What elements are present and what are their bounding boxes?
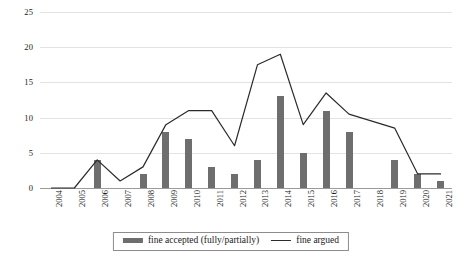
x-axis-tick-label: 2007: [120, 182, 129, 199]
x-axis-tick-label: 2008: [143, 182, 152, 199]
x-axis-tick-label: 2017: [349, 182, 358, 199]
plot-area: [40, 12, 452, 188]
chart-figure: 0510152025 20042005200620072008200920102…: [0, 0, 462, 263]
legend-label-fine-argued: fine argued: [296, 236, 339, 246]
legend-label-fine-accepted: fine accepted (fully/partially): [148, 236, 259, 246]
y-axis-tick-label: 15: [24, 78, 33, 87]
x-axis: 2004200520062007200820092010201120122013…: [40, 190, 452, 230]
y-axis-tick-label: 10: [24, 113, 33, 122]
x-axis-tick-label: 2019: [395, 182, 404, 199]
x-axis-tick-label: 2010: [189, 182, 198, 199]
x-axis-tick-label: 2006: [97, 182, 106, 199]
line-swatch-icon: [271, 240, 291, 241]
chart-legend: fine accepted (fully/partially) fine arg…: [113, 232, 349, 251]
x-axis-tick-label: 2018: [372, 182, 381, 199]
y-axis-tick-label: 5: [29, 149, 33, 158]
y-axis: 0510152025: [0, 0, 38, 200]
plot-wrapper: 0510152025 20042005200620072008200920102…: [0, 0, 462, 200]
legend-item-fine-argued: fine argued: [271, 236, 339, 246]
y-axis-tick-label: 25: [24, 8, 33, 17]
line-series-fine-argued: [40, 12, 452, 188]
x-axis-tick-label: 2009: [166, 182, 175, 199]
x-axis-tick-label: 2014: [280, 182, 289, 199]
x-axis-tick-label: 2012: [235, 182, 244, 199]
y-axis-tick-label: 20: [24, 43, 33, 52]
x-axis-tick-label: 2005: [74, 182, 83, 199]
x-axis-tick-label: 2020: [418, 182, 427, 199]
x-axis-tick-label: 2021: [441, 182, 450, 199]
x-axis-tick-label: 2011: [212, 182, 221, 199]
bar-swatch-icon: [123, 238, 143, 243]
x-axis-tick-label: 2015: [303, 182, 312, 199]
legend-item-fine-accepted: fine accepted (fully/partially): [123, 236, 259, 246]
x-axis-tick-label: 2016: [326, 182, 335, 199]
x-axis-tick-label: 2004: [51, 182, 60, 199]
y-axis-tick-label: 0: [29, 184, 33, 193]
x-axis-tick-label: 2013: [257, 182, 266, 199]
